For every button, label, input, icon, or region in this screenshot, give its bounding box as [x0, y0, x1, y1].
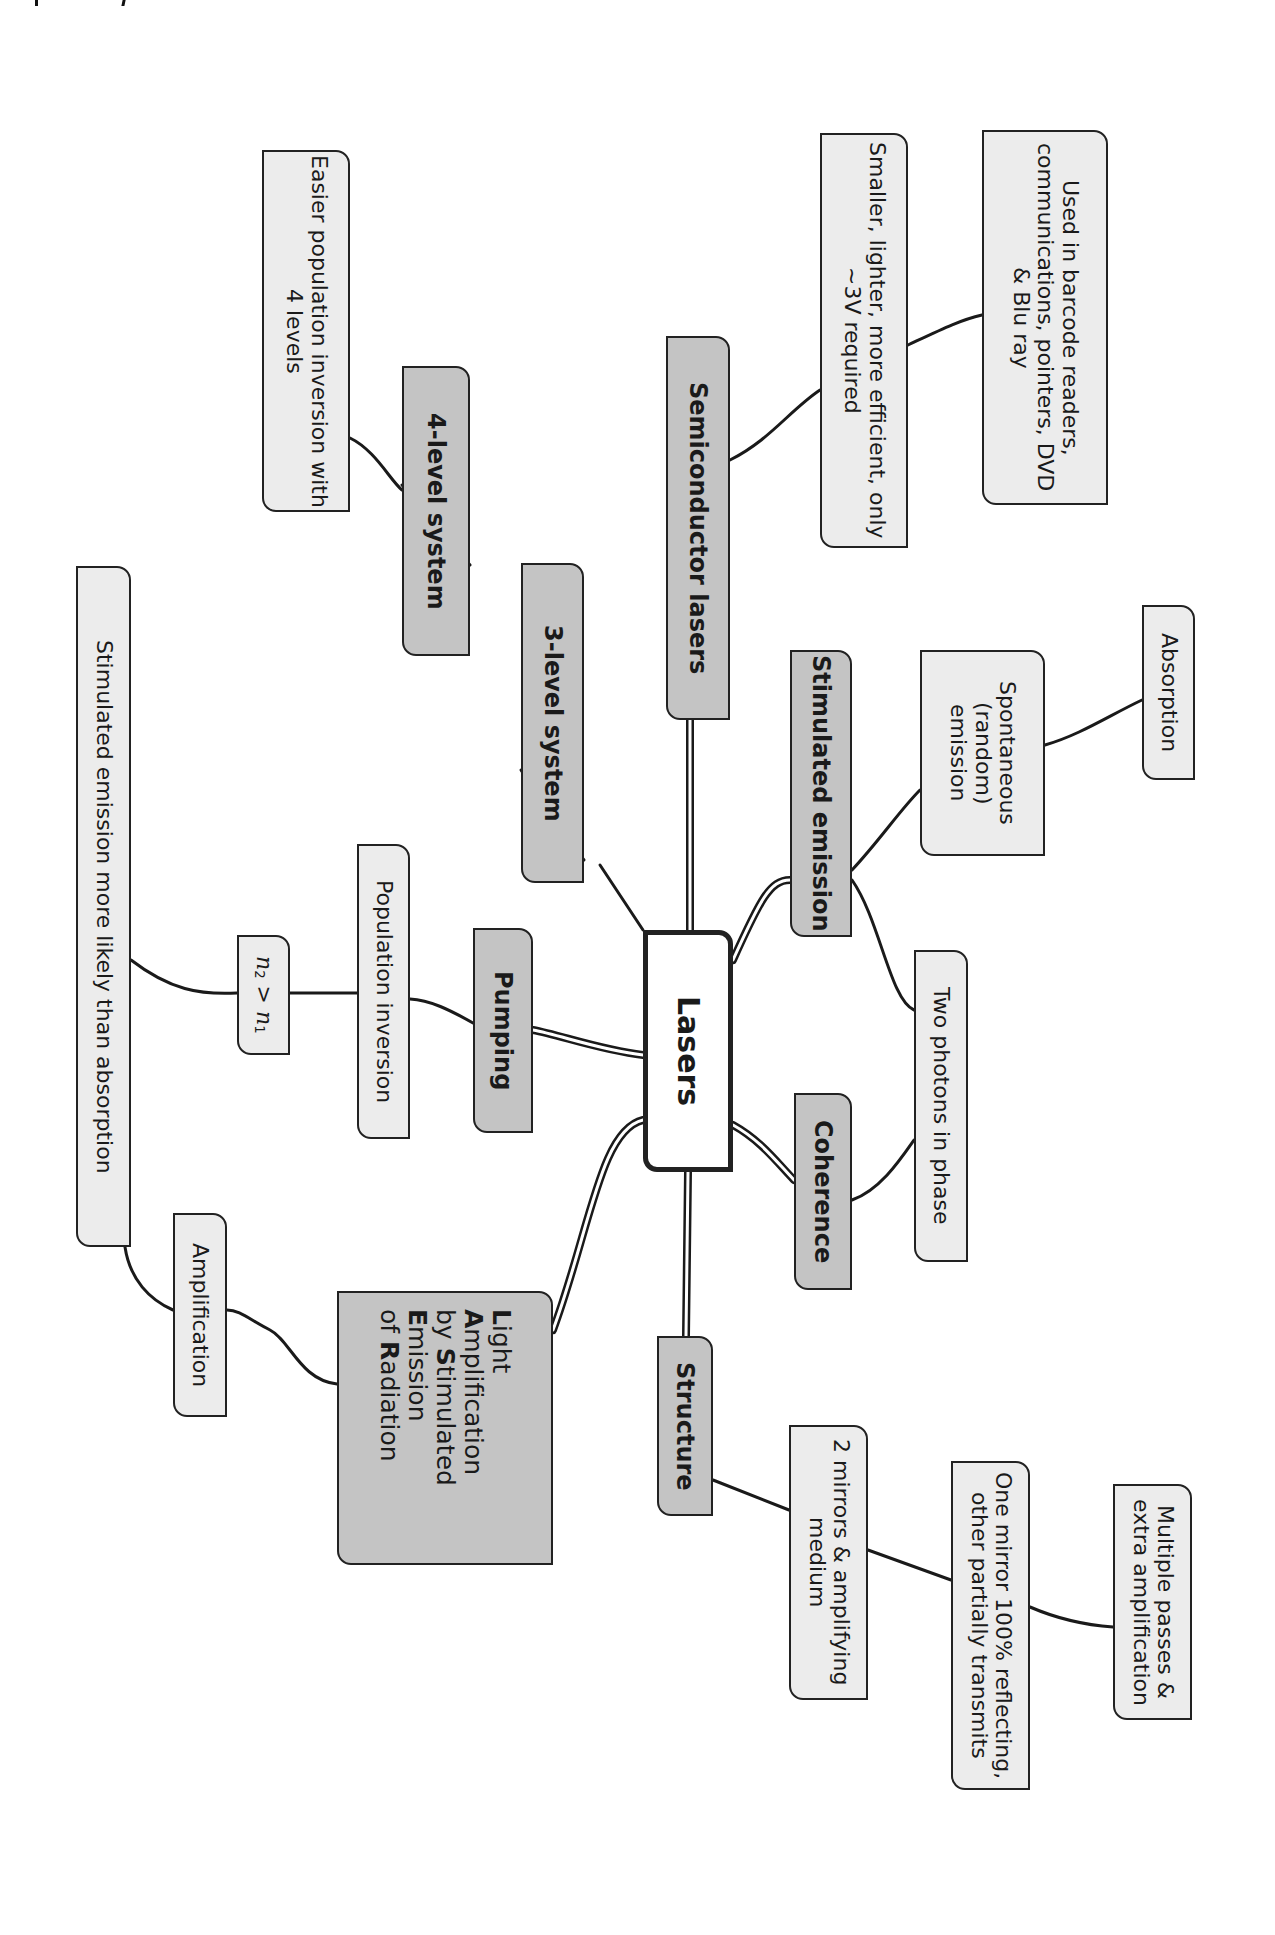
node-population-inversion: Population inversion	[357, 844, 410, 1139]
node-3-level-system: 3-level system	[521, 563, 584, 883]
node-smaller-lighter: Smaller, lighter, more efficient, only ~…	[820, 133, 908, 548]
node-two-mirrors: 2 mirrors & amplifying medium	[789, 1425, 868, 1700]
acronym-line-5: of Radiation	[375, 1309, 404, 1462]
node-multiple-passes: Multiple passes & extra amplification	[1113, 1484, 1192, 1720]
node-4-level-system: 4-level system	[402, 366, 470, 656]
center-node-lasers: Lasers	[643, 930, 733, 1172]
node-stimulated-emission: Stimulated emission	[790, 650, 852, 937]
node-easier-population-inversion: Easier population inversion with 4 level…	[262, 150, 350, 512]
node-laser-acronym: Light Amplification by Stimulated Emissi…	[337, 1291, 553, 1565]
node-structure: Structure	[657, 1336, 713, 1516]
node-spontaneous-emission: Spontaneous (random) emission	[920, 650, 1045, 856]
node-pumping: Pumping	[473, 928, 533, 1133]
node-absorption: Absorption	[1142, 605, 1195, 780]
node-one-mirror-reflecting: One mirror 100% reflecting, other partia…	[951, 1461, 1030, 1790]
acronym-line-2: Amplification	[459, 1309, 488, 1475]
node-amplification: Amplification	[173, 1213, 227, 1417]
node-coherence: Coherence	[794, 1093, 852, 1290]
node-barcode-uses: Used in barcode readers, communications,…	[982, 130, 1108, 505]
node-stimulated-more-likely: Stimulated emission more likely than abs…	[76, 566, 131, 1247]
acronym-line-4: Emission	[403, 1309, 432, 1422]
acronym-line-1: Light	[487, 1309, 516, 1373]
node-two-photons-in-phase: Two photons in phase	[914, 950, 968, 1262]
center-label: Lasers	[671, 996, 705, 1106]
node-semiconductor-lasers: Semiconductor lasers	[666, 336, 730, 720]
node-n2-greater-than-n1: n2 > n1	[237, 935, 290, 1055]
acronym-line-3: by Stimulated	[431, 1309, 460, 1486]
